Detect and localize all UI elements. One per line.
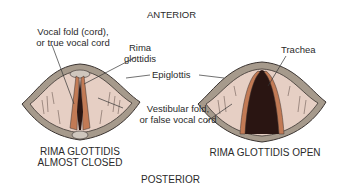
anterior-label: ANTERIOR	[147, 9, 196, 20]
vocal-fold-label-line1: Vocal fold (cord),	[18, 26, 128, 37]
larynx-open-figure	[198, 62, 326, 142]
larynx-almost-closed-figure	[22, 64, 140, 140]
posterior-label: POSTERIOR	[141, 174, 200, 185]
rima-glottidis-label-line2: glottidis	[118, 53, 162, 64]
vocal-fold-label-line2: or true vocal cord	[18, 37, 128, 48]
rima-glottidis-label: Rima glottidis	[118, 42, 162, 64]
caption-open: RIMA GLOTTIDIS OPEN	[200, 147, 330, 158]
vocal-fold-label: Vocal fold (cord), or true vocal cord	[18, 26, 128, 48]
caption-almost-closed-line1: RIMA GLOTTIDIS	[20, 146, 140, 157]
vestibular-fold-label-line2: or false vocal cord	[128, 114, 228, 125]
caption-almost-closed: RIMA GLOTTIDIS ALMOST CLOSED	[20, 146, 140, 168]
caption-almost-closed-line2: ALMOST CLOSED	[20, 157, 140, 168]
rima-glottidis-label-line1: Rima	[118, 42, 162, 53]
trachea-label: Trachea	[281, 44, 316, 55]
vestibular-fold-label: Vestibular fold, or false vocal cord	[128, 103, 228, 125]
epiglottis-label: Epiglottis	[152, 69, 191, 80]
vestibular-fold-label-line1: Vestibular fold,	[128, 103, 228, 114]
